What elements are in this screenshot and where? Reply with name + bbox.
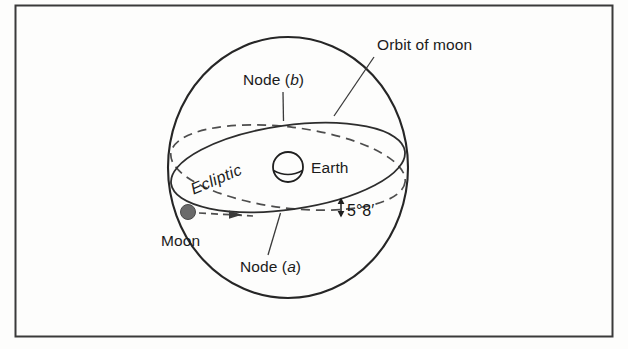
node-b-label: Node (b) (243, 71, 304, 88)
node-a-label: Node (a) (240, 258, 301, 275)
moon-label: Moon (161, 232, 200, 249)
orbit-of-moon-label: Orbit of moon (377, 36, 472, 53)
node-b-letter: b (290, 71, 299, 88)
node-b-prefix: Node ( (243, 71, 291, 88)
node-b-leader-line (283, 92, 284, 121)
earth-label: Earth (311, 159, 349, 176)
earth-globe-icon (273, 152, 303, 182)
earth-sphere-outline (273, 152, 303, 182)
celestial-sphere-diagram: Earth Moon Ecliptic Node (b) Node (a) Or… (0, 0, 628, 349)
moon-disc-icon (181, 205, 196, 220)
inclination-angle-label: 5°8′ (347, 202, 374, 219)
node-a-letter: a (287, 258, 296, 275)
figure-root: Earth Moon Ecliptic Node (b) Node (a) Or… (0, 0, 628, 349)
node-a-prefix: Node ( (240, 258, 288, 275)
node-b-suffix: ) (299, 71, 304, 88)
node-a-suffix: ) (296, 258, 301, 275)
